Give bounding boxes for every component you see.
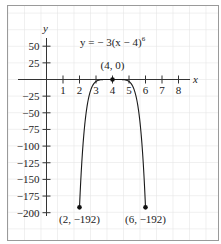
y-tick-label: −75 <box>22 123 40 135</box>
y-tick-label: −50 <box>22 107 40 119</box>
x-tick-label: 2 <box>77 84 83 96</box>
x-tick-label: 3 <box>93 84 99 96</box>
y-tick-label: 50 <box>29 40 41 52</box>
y-tick-label: −175 <box>17 190 40 202</box>
x-tick-label: 7 <box>159 84 165 96</box>
y-axis-label: y <box>42 22 48 34</box>
x-tick-label: 1 <box>60 84 66 96</box>
point-marker <box>77 205 82 210</box>
point-label: (2, −192) <box>59 213 100 226</box>
x-tick-label: 4 <box>110 84 116 96</box>
y-tick-label: −200 <box>17 207 40 219</box>
y-tick-label: −125 <box>17 157 40 169</box>
x-tick-label: 6 <box>143 84 149 96</box>
point-marker <box>143 205 148 210</box>
point-marker <box>110 77 115 82</box>
function-graph: 12345678 5025−25−50−75−100−125−150−175−2… <box>0 0 221 244</box>
x-axis-label: x <box>192 73 198 85</box>
y-tick-label: 25 <box>29 57 41 69</box>
equation-label: y = − 3(x − 4)6 <box>80 35 146 49</box>
x-tick-label: 5 <box>126 84 132 96</box>
x-tick-label: 8 <box>176 84 182 96</box>
y-tick-label: −25 <box>22 90 40 102</box>
x-axis: 12345678 <box>18 76 190 96</box>
function-curve <box>80 80 146 208</box>
y-axis: 5025−25−50−75−100−125−150−175−200 <box>17 38 51 219</box>
point-label: (4, 0) <box>101 59 125 72</box>
y-tick-label: −100 <box>17 140 40 152</box>
y-tick-label: −150 <box>17 173 40 185</box>
point-label: (6, −192) <box>125 213 166 226</box>
